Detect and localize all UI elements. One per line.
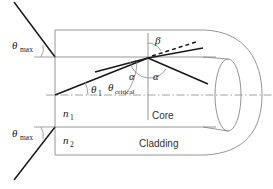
theta-critical-label: θ critical <box>108 81 134 96</box>
n1-subscript: 1 <box>70 113 74 122</box>
theta-max-top-label: θ max <box>12 39 33 54</box>
alpha-right-label: α <box>153 71 159 82</box>
theta-one-arc <box>85 82 88 95</box>
core-label: Core <box>152 110 174 121</box>
fiber-body-outline <box>55 30 262 155</box>
alpha-left-label: α <box>129 71 135 82</box>
n2-subscript: 2 <box>70 140 74 149</box>
theta-max-top-arc <box>41 45 43 57</box>
cladding-label: Cladding <box>139 138 178 149</box>
optical-fiber-diagram: θ max θ max θ 1 θ critical α α β n 1 <box>0 0 273 189</box>
cladding-end-cap-arc <box>205 30 262 155</box>
theta-critical-symbol: θ <box>108 81 114 93</box>
theta-max-bottom-label: θ max <box>12 127 33 142</box>
theta-max-top-subscript: max <box>20 45 33 54</box>
theta-critical-subscript: critical <box>115 88 134 96</box>
theta-max-top-symbol: θ <box>12 39 18 51</box>
theta-max-bottom-subscript: max <box>20 133 33 142</box>
beta-label: β <box>154 34 161 46</box>
theta-one-symbol: θ <box>91 83 97 95</box>
n2-symbol: n <box>63 134 69 146</box>
theta-max-bottom-symbol: θ <box>12 127 18 139</box>
n1-label: n 1 <box>63 107 74 122</box>
ray-extension-upper-right <box>148 48 203 58</box>
theta-one-subscript: 1 <box>98 89 102 98</box>
n2-label: n 2 <box>63 134 74 149</box>
theta-max-bottom-arc <box>41 127 43 139</box>
theta-one-label: θ 1 <box>91 83 102 98</box>
n1-symbol: n <box>63 107 69 119</box>
ray-stub-left <box>95 58 148 72</box>
incident-rays <box>14 2 55 180</box>
